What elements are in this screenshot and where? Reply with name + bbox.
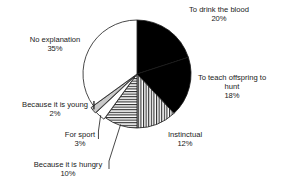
pie-slice-name-label: No explanation	[30, 35, 81, 44]
pie-slice-name-label: hunt	[225, 82, 241, 91]
pie-slice-name-label: To drink the blood	[189, 5, 249, 14]
pie-slice-name-label: For sport	[65, 130, 96, 139]
pie-slice-name-label: To teach offspring to	[198, 73, 266, 82]
pie-slice-name-label: Instinctual	[168, 130, 203, 139]
pie-slice-value-label: 10%	[60, 169, 75, 178]
pie-slices-group	[83, 20, 191, 128]
pie-slice-name-label: Because it is young	[22, 100, 88, 109]
pie-slice-value-label: 35%	[47, 44, 62, 53]
pie-chart-canvas: To drink the blood20%To teach offspring …	[0, 0, 286, 191]
pie-slice-value-label: 20%	[211, 14, 226, 23]
pie-slice-value-label: 18%	[224, 91, 239, 100]
pie-slice-name-label: Because it is hungry	[34, 160, 103, 169]
pie-chart-figure: To drink the blood20%To teach offspring …	[0, 0, 286, 191]
pie-slice-value-label: 3%	[75, 139, 86, 148]
pie-slice-value-label: 2%	[50, 109, 61, 118]
pie-slice-value-label: 12%	[177, 139, 192, 148]
leader-line	[109, 124, 121, 169]
leader-line	[98, 115, 100, 139]
